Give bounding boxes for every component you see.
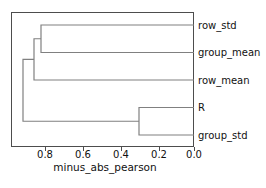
x-tick-label: 0.8 (37, 149, 53, 160)
leaf-label-group_mean: group_mean (198, 47, 260, 59)
dendrogram-link (34, 39, 194, 80)
leaf-label-group_std: group_std (198, 130, 248, 142)
x-tick-label: 0.6 (75, 149, 91, 160)
dendrogram-link (41, 25, 194, 53)
x-tick-label: 0.4 (113, 149, 129, 160)
x-tick-label: 0.2 (151, 149, 167, 160)
leaf-label-row_std: row_std (198, 20, 237, 32)
leaf-label-R: R (198, 102, 205, 113)
axis-ticks: 0.80.60.40.20.0 (37, 147, 202, 161)
dendrogram-link (139, 108, 194, 136)
x-axis-title: minus_abs_pearson (53, 161, 156, 174)
leaf-label-row_mean: row_mean (198, 75, 250, 87)
dendrogram-figure: 0.80.60.40.20.0 row_stdgroup_meanrow_mea… (0, 0, 266, 188)
dendrogram-link (23, 59, 139, 121)
leaf-labels: row_stdgroup_meanrow_meanRgroup_std (198, 20, 260, 142)
x-tick-label: 0.0 (186, 149, 202, 160)
dendrogram-links (23, 25, 194, 135)
dendrogram-canvas: 0.80.60.40.20.0 row_stdgroup_meanrow_mea… (0, 0, 266, 188)
